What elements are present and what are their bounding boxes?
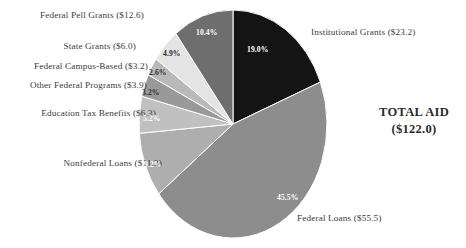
slice-percent-education-tax-benefits: 5.2% [143,114,161,123]
total-aid-line2: ($122.0) [366,121,462,138]
pie-slices [139,10,327,238]
total-aid-annotation: TOTAL AID ($122.0) [366,104,462,138]
slice-percent-federal-loans: 45.5% [277,193,298,202]
slice-percent-nonfederal-loans: 9.2% [144,160,162,169]
callout-label-institutional-grants: Institutional Grants ($23.2) [311,27,415,37]
callout-label-federal-campus-based: Federal Campus-Based ($3.2) [34,61,148,71]
pie-chart: Federal Pell Grants ($12.6) State Grants… [0,0,466,248]
slice-percent-institutional-grants: 19.0% [247,45,268,54]
total-aid-line1: TOTAL AID [366,104,462,121]
callout-label-federal-loans: Federal Loans ($55.5) [297,213,382,223]
slice-percent-federal-campus-based: 2.6% [149,68,167,77]
callout-label-federal-pell-grants: Federal Pell Grants ($12.6) [40,10,144,20]
callout-label-state-grants: State Grants ($6.0) [63,41,136,51]
callout-label-education-tax-benefits: Education Tax Benefits ($6.3) [41,108,156,118]
slice-percent-other-federal-programs: 3.2% [142,88,160,97]
slice-percent-federal-pell-grants: 10.4% [196,28,217,37]
slice-percent-state-grants: 4.9% [163,49,181,58]
callout-label-other-federal-programs: Other Federal Programs ($3.9) [30,80,147,90]
